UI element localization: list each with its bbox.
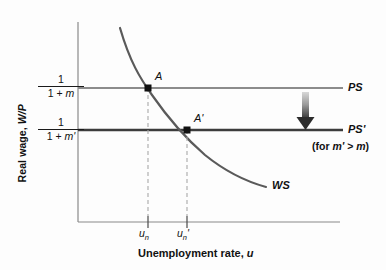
fraction-denominator-italic: m' bbox=[65, 130, 76, 142]
fraction-denominator: 1 + m bbox=[38, 87, 84, 99]
point-a-marker bbox=[145, 85, 152, 92]
xtick-prime: ' bbox=[187, 227, 189, 239]
fraction-numerator: 1 bbox=[38, 74, 84, 87]
fraction-numerator: 1 bbox=[38, 117, 84, 130]
condition-italic-m: m bbox=[356, 140, 365, 152]
fraction-denominator-text: 1 + bbox=[48, 87, 66, 99]
xtick-subscript: n bbox=[145, 233, 149, 242]
fraction-denominator-italic: m bbox=[66, 87, 75, 99]
ps-prime-curve-label: PS' bbox=[348, 124, 365, 135]
ytick-label-one-over-one-plus-m: 1 1 + m bbox=[38, 74, 84, 100]
ytick-label-one-over-one-plus-m-prime: 1 1 + m' bbox=[38, 117, 84, 143]
point-a-prime-label: A' bbox=[194, 113, 203, 124]
condition-prefix: (for bbox=[312, 140, 332, 152]
condition-suffix: ) bbox=[366, 140, 370, 152]
x-axis-label-text: Unemployment rate, bbox=[138, 247, 247, 259]
y-axis-label: Real wage, W/P bbox=[17, 83, 28, 203]
x-axis-label-italic: u bbox=[247, 247, 254, 259]
xtick-label-un: un bbox=[139, 228, 149, 242]
ps-curve-label: PS bbox=[348, 82, 363, 93]
y-axis-label-italic: W/P bbox=[16, 104, 28, 124]
figure-wage-price-setting: Real wage, W/P Unemployment rate, u 1 1 … bbox=[0, 0, 386, 270]
fraction-denominator-text: 1 + bbox=[47, 130, 65, 142]
xtick-label-un-prime: un' bbox=[177, 228, 189, 242]
ws-curve-label: WS bbox=[272, 180, 290, 191]
shift-arrow-icon bbox=[297, 92, 315, 130]
point-a-label: A bbox=[155, 71, 162, 82]
point-a-prime-marker bbox=[184, 127, 191, 134]
y-axis-label-text: Real wage, bbox=[16, 124, 28, 182]
fraction-denominator: 1 + m' bbox=[38, 130, 84, 142]
condition-italic-m-prime: m' bbox=[332, 140, 344, 152]
ws-curve bbox=[120, 28, 266, 187]
x-axis-label: Unemployment rate, u bbox=[138, 248, 254, 259]
markup-condition-note: (for m' > m) bbox=[312, 141, 369, 152]
condition-mid: > bbox=[344, 140, 356, 152]
